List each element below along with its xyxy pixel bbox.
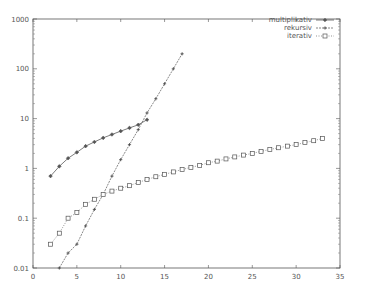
chart-container: 051015202530350.010.11101001000 multipli… bbox=[0, 0, 375, 296]
series-iterativ bbox=[49, 136, 325, 246]
y-tick-label: 0.1 bbox=[18, 215, 29, 223]
y-tick-label: 1000 bbox=[11, 16, 29, 24]
plot-area: 051015202530350.010.11101001000 multipli… bbox=[0, 0, 375, 296]
legend-label-rekursiv: rekursiv bbox=[284, 24, 312, 32]
series-group bbox=[49, 52, 325, 269]
legend-sample-iterativ bbox=[316, 34, 334, 38]
x-tick-label: 5 bbox=[75, 273, 79, 281]
y-tick-label: 0.01 bbox=[13, 265, 29, 273]
series-rekursiv bbox=[58, 52, 184, 269]
x-tick-label: 15 bbox=[160, 273, 169, 281]
legend-sample-rekursiv bbox=[316, 26, 334, 29]
x-tick-label: 25 bbox=[248, 273, 257, 281]
legend: multiplikativ rekursiv iterativ bbox=[269, 16, 334, 40]
series-multiplikativ bbox=[49, 118, 149, 178]
x-tick-label: 0 bbox=[31, 273, 35, 281]
axes: 051015202530350.010.11101001000 bbox=[11, 16, 344, 282]
y-tick-label: 10 bbox=[20, 115, 29, 123]
x-tick-label: 20 bbox=[204, 273, 213, 281]
x-tick-label: 35 bbox=[336, 273, 345, 281]
legend-label-multiplikativ: multiplikativ bbox=[269, 16, 312, 24]
x-tick-label: 10 bbox=[116, 273, 125, 281]
x-tick-label: 30 bbox=[292, 273, 301, 281]
y-tick-label: 100 bbox=[16, 65, 29, 73]
y-tick-label: 1 bbox=[25, 165, 29, 173]
legend-label-iterativ: iterativ bbox=[287, 32, 312, 40]
